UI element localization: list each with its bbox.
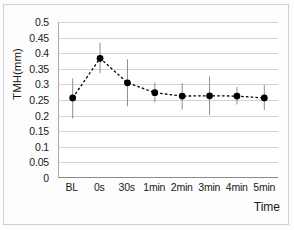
- y-tick-label: 0.35: [29, 63, 49, 75]
- data-point-marker: [97, 55, 104, 62]
- x-axis-title: Time: [254, 200, 280, 214]
- y-tick-label: 0.45: [29, 32, 49, 44]
- data-point-marker: [69, 95, 76, 102]
- y-tick-label: 0.2: [35, 110, 49, 122]
- data-point-marker: [124, 79, 131, 86]
- x-tick-label: 2min: [171, 181, 193, 193]
- data-point-marker: [234, 93, 241, 100]
- y-axis-tick-labels: 0.50.450.40.350.30.250.20.150.10.050: [0, 22, 53, 178]
- y-tick-label: 0: [43, 172, 49, 184]
- x-tick-label: 4min: [226, 181, 248, 193]
- data-point-marker: [261, 95, 268, 102]
- y-tick-label: 0.3: [35, 78, 49, 90]
- data-point-marker: [206, 92, 213, 99]
- y-tick-label: 0.25: [29, 94, 49, 106]
- y-tick-label: 0.05: [29, 156, 49, 168]
- x-tick-label: 1min: [143, 181, 165, 193]
- x-tick-label: 5min: [253, 181, 275, 193]
- x-tick-label: 0s: [94, 181, 105, 193]
- chart-figure: TMH(mm) 0.50.450.40.350.30.250.20.150.10…: [0, 0, 294, 230]
- y-tick-label: 0.1: [35, 141, 49, 153]
- data-point-marker: [179, 93, 186, 100]
- x-axis-tick-labels: BL0s30s1min2min3min4min5min: [58, 181, 278, 197]
- y-tick-label: 0.5: [35, 16, 49, 28]
- x-tick-label: 3min: [198, 181, 220, 193]
- y-tick-label: 0.4: [35, 47, 49, 59]
- x-tick-label: BL: [66, 181, 78, 193]
- data-point-marker: [151, 89, 158, 96]
- y-tick-label: 0.15: [29, 125, 49, 137]
- plot-area: [58, 22, 278, 178]
- series-line: [73, 58, 265, 98]
- x-tick-label: 30s: [119, 181, 135, 193]
- data-series-layer: [59, 22, 278, 177]
